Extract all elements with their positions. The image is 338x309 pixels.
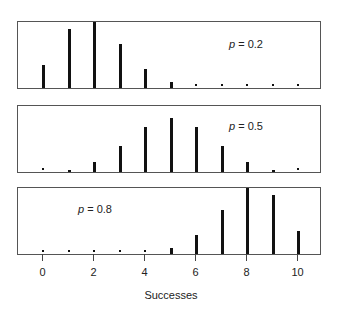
p-label: p = 0.5 (229, 120, 263, 132)
x-tick-label: 2 (84, 266, 104, 278)
bar (170, 82, 173, 88)
bar (246, 188, 249, 254)
bar (68, 29, 71, 88)
bar (195, 127, 198, 172)
p-value: = 0.5 (235, 120, 263, 132)
x-tick (195, 254, 196, 261)
x-tick (42, 254, 43, 261)
bar (221, 146, 224, 172)
bar (119, 250, 121, 252)
panel-p08: p = 0.8 (17, 187, 321, 255)
p-label: p = 0.2 (229, 38, 263, 50)
bar (297, 84, 299, 86)
p-value: = 0.8 (84, 203, 112, 215)
bar (42, 168, 44, 170)
bar (68, 250, 70, 252)
bar (221, 210, 224, 254)
bar (144, 127, 147, 172)
bar (297, 168, 299, 170)
bar (246, 84, 248, 86)
x-tick-label: 6 (186, 266, 206, 278)
x-tick-label: 4 (135, 266, 155, 278)
bar (170, 118, 173, 172)
bar (42, 250, 44, 252)
bar (297, 231, 300, 254)
bar (272, 195, 275, 254)
bar (170, 248, 173, 254)
x-tick (93, 254, 94, 261)
panel-p05: p = 0.5 (17, 105, 321, 173)
p-value: = 0.2 (235, 38, 263, 50)
p-label: p = 0.8 (78, 203, 112, 215)
panel-p02: p = 0.2 (17, 21, 321, 89)
bar (68, 170, 71, 172)
x-tick (144, 254, 145, 261)
x-tick-label: 8 (237, 266, 257, 278)
x-axis-label: Successes (0, 289, 338, 301)
bar (221, 84, 223, 86)
bar (272, 170, 275, 172)
bar (42, 65, 45, 88)
bar (144, 250, 146, 252)
bar (195, 84, 197, 86)
bar (93, 250, 95, 252)
bar (93, 22, 96, 88)
x-tick-label: 10 (288, 266, 308, 278)
x-tick (246, 254, 247, 261)
bar (246, 162, 249, 172)
bar (93, 162, 96, 172)
bar (119, 146, 122, 172)
bar (195, 235, 198, 254)
x-tick-label: 0 (33, 266, 53, 278)
bar (144, 69, 147, 88)
bar (119, 44, 122, 88)
bar (272, 84, 274, 86)
x-tick (297, 254, 298, 261)
